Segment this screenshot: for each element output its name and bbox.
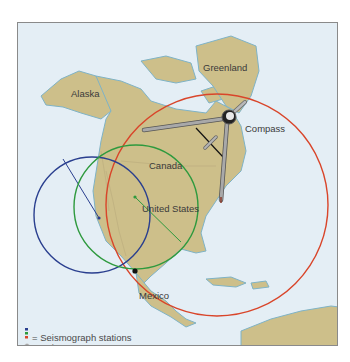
legend-epicenter-text: = Epicenter bbox=[32, 342, 80, 346]
label-canada: Canada bbox=[149, 161, 182, 171]
label-united-states: United States bbox=[142, 204, 199, 214]
epicenter-map-figure: Alaska Greenland Canada United States Me… bbox=[17, 22, 338, 346]
green-station-dot bbox=[133, 195, 136, 198]
legend-epicenter: = Epicenter bbox=[32, 342, 80, 346]
legend-station-icon bbox=[25, 328, 28, 339]
label-greenland: Greenland bbox=[203, 63, 247, 73]
label-compass: Compass bbox=[245, 124, 285, 134]
label-alaska: Alaska bbox=[71, 89, 100, 99]
blue-station-dot bbox=[97, 216, 100, 219]
map-graphics bbox=[18, 23, 338, 346]
label-mexico: Mexico bbox=[139, 291, 169, 301]
epicenter-dot bbox=[132, 268, 137, 273]
land bbox=[41, 36, 338, 346]
legend-epicenter-icon bbox=[24, 343, 29, 346]
